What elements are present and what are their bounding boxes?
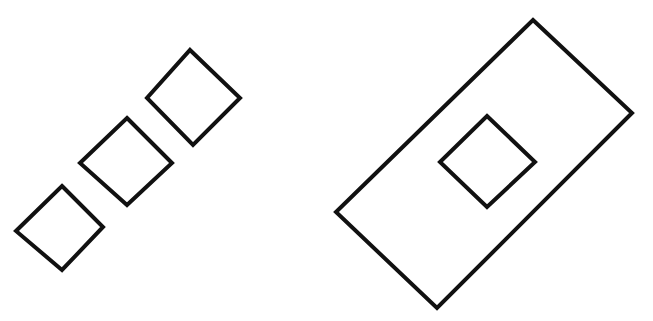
- canvas-background: [0, 0, 653, 321]
- figure-canvas: [0, 0, 653, 321]
- shapes-drawing: [0, 0, 653, 321]
